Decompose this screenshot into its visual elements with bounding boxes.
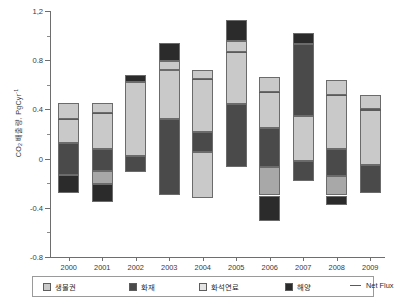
bar-segment (192, 132, 213, 153)
bar-segment (326, 149, 347, 176)
net-flux-marker (326, 95, 347, 96)
x-tick (69, 257, 70, 261)
x-tick (236, 257, 237, 261)
bar-segment (259, 196, 280, 222)
bar-segment (125, 156, 146, 172)
y-tick-minor (47, 36, 50, 37)
legend-item-3[interactable]: 화석연료 (199, 281, 239, 292)
x-tick-label-2002: 2002 (128, 263, 144, 272)
y-tick-minor (47, 183, 50, 184)
x-tick (303, 257, 304, 261)
y-tick-major (45, 60, 50, 61)
legend-swatch-icon (43, 283, 51, 291)
legend-label: 화재 (141, 281, 155, 292)
y-tick-minor (47, 232, 50, 233)
bar-segment (125, 75, 146, 82)
x-axis-line (50, 257, 385, 258)
bar-segment (192, 70, 213, 79)
bar-segment (159, 43, 180, 61)
net-flux-marker (92, 113, 113, 114)
x-tick (102, 257, 103, 261)
bar-segment (326, 196, 347, 206)
legend-line-icon (350, 285, 361, 286)
bar-segment (58, 103, 79, 119)
bar-segment (58, 143, 79, 175)
legend-item-1[interactable]: 생물권 (43, 281, 76, 292)
x-tick-label-2001: 2001 (94, 263, 110, 272)
bar-segment (92, 171, 113, 185)
legend-swatch-icon (199, 283, 207, 291)
x-tick-label-2004: 2004 (195, 263, 211, 272)
y-tick-label: 0.4 (32, 105, 43, 114)
y-tick-minor (47, 134, 50, 135)
x-tick (203, 257, 204, 261)
bar-segment (259, 77, 280, 92)
legend-item-2[interactable]: 화재 (129, 281, 155, 292)
y-axis-label-subscript: 2 (17, 143, 23, 146)
legend-label: 화석연료 (211, 281, 239, 292)
bar-segment (226, 41, 247, 52)
bar-segment (58, 119, 79, 142)
net-flux-marker (192, 79, 213, 80)
bar-segment (159, 119, 180, 195)
bar-segment (92, 149, 113, 171)
bar-segment (226, 104, 247, 167)
bar-segment (326, 176, 347, 196)
bar-segment (360, 109, 381, 164)
bar-segment (360, 165, 381, 193)
x-tick-label-2007: 2007 (295, 263, 311, 272)
net-flux-marker (259, 92, 280, 93)
net-flux-marker (226, 52, 247, 53)
x-tick-label-2006: 2006 (262, 263, 278, 272)
y-tick-major (45, 208, 50, 209)
bar-segment (360, 95, 381, 110)
y-tick-major (45, 159, 50, 160)
y-tick-major (45, 257, 50, 258)
bar-segment (192, 79, 213, 132)
x-tick-label-2003: 2003 (161, 263, 177, 272)
bar-segment (92, 103, 113, 113)
bar-segment (159, 61, 180, 70)
chart-legend: 생물권화재화석연료해양Net Flux (32, 276, 374, 297)
x-tick (270, 257, 271, 261)
legend-label: Net Flux (366, 281, 394, 290)
bar-segment (293, 44, 314, 115)
x-tick-label-2000: 2000 (61, 263, 77, 272)
legend-label: 해양 (297, 281, 311, 292)
y-axis-label-prefix: CO (14, 146, 23, 157)
bar-segment (92, 184, 113, 201)
y-axis-label-mid: 배출량, PgCyr (14, 94, 23, 143)
bar-segment (125, 82, 146, 156)
bar-segment (159, 70, 180, 119)
bar-segment (326, 95, 347, 149)
bar-segment (259, 167, 280, 195)
legend-item-4[interactable]: 해양 (285, 281, 311, 292)
bar-segment (259, 92, 280, 128)
x-tick (169, 257, 170, 261)
bar-segment (226, 52, 247, 105)
y-tick-label: -0.8 (30, 253, 43, 262)
legend-swatch-icon (129, 283, 137, 291)
y-tick-label: 0.8 (32, 56, 43, 65)
legend-label: 생물권 (55, 281, 76, 292)
net-flux-marker (360, 109, 381, 110)
x-tick (136, 257, 137, 261)
y-tick-label: -0.4 (30, 203, 43, 212)
bar-segment (326, 80, 347, 95)
plot-area: -0.8-0.400.40.81,2 200020012002200320042… (50, 11, 385, 257)
x-tick-label-2008: 2008 (329, 263, 345, 272)
bar-segment (92, 113, 113, 149)
x-tick-label-2009: 2009 (362, 263, 378, 272)
x-tick (370, 257, 371, 261)
y-axis-label-superscript: -1 (13, 89, 19, 94)
y-tick-major (45, 109, 50, 110)
y-tick-label: 1,2 (32, 7, 43, 16)
net-flux-marker (58, 119, 79, 120)
bar-segment (293, 116, 314, 162)
bar-segment (293, 161, 314, 181)
x-tick (337, 257, 338, 261)
bar-segment (58, 175, 79, 193)
legend-item-5[interactable]: Net Flux (350, 281, 394, 290)
legend-swatch-icon (285, 283, 293, 291)
bar-segment (192, 152, 213, 198)
